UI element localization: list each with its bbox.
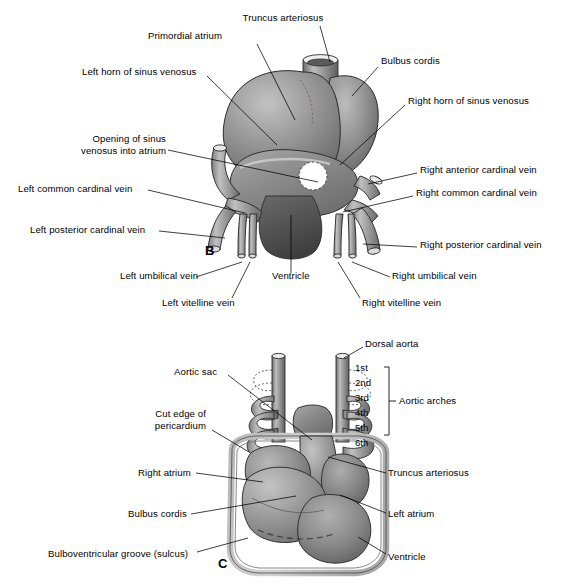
aortic-sac-shape (293, 405, 332, 436)
label-opening-of-sinus-venosus-into-atrium: Opening of sinus venosus into atrium (20, 133, 166, 156)
label-bulbus-cordis-c: Bulbus cordis (128, 508, 187, 520)
label-right-anterior-cardinal-vein: Right anterior cardinal vein (420, 164, 537, 176)
arch-number-5th: 5th (355, 422, 368, 433)
label-truncus-arteriosus: Truncus arteriosus (213, 12, 353, 24)
label-left-vitelline-vein: Left vitelline vein (162, 297, 235, 309)
anatomical-illustration (0, 0, 562, 586)
panel-letter-c: C (218, 556, 227, 571)
figure-root: Truncus arteriosus Primordial atrium Bul… (0, 0, 562, 586)
label-right-umbilical-vein: Right umbilical vein (392, 270, 477, 282)
arch-number-6th: 6th (355, 437, 368, 448)
panel-letter-b: B (205, 243, 214, 258)
label-left-horn-of-sinus-venosus: Left horn of sinus venosus (82, 66, 197, 78)
label-left-umbilical-vein: Left umbilical vein (120, 270, 198, 282)
aortic-arches-bracket (384, 367, 396, 435)
arch-number-1st: 1st (355, 362, 368, 373)
label-right-common-cardinal-vein: Right common cardinal vein (416, 187, 537, 199)
label-right-horn-of-sinus-venosus: Right horn of sinus venosus (408, 95, 529, 107)
label-right-vitelline-vein: Right vitelline vein (362, 297, 441, 309)
label-bulbus-cordis: Bulbus cordis (381, 55, 440, 67)
label-right-atrium: Right atrium (138, 467, 191, 479)
label-left-atrium: Left atrium (388, 508, 434, 520)
label-bulboventricular-groove: Bulboventricular groove (sulcus) (48, 548, 188, 560)
label-right-posterior-cardinal-vein: Right posterior cardinal vein (420, 239, 542, 251)
sinus-venosus-opening (299, 162, 327, 190)
arch-number-2nd: 2nd (355, 377, 371, 388)
label-aortic-arches: Aortic arches (399, 395, 456, 407)
ventricle-shape-c (298, 494, 371, 563)
label-primordial-atrium: Primordial atrium (115, 30, 255, 42)
arch-number-4th: 4th (355, 407, 368, 418)
arch-number-3rd: 3rd (355, 392, 369, 403)
ventricle-shape-b (259, 196, 322, 259)
label-truncus-arteriosus-c: Truncus arteriosus (388, 467, 469, 479)
label-dorsal-aorta: Dorsal aorta (365, 338, 418, 350)
label-cut-edge-of-pericardium: Cut edge of pericardium (78, 408, 206, 431)
label-ventricle-c: Ventricle (388, 551, 426, 563)
label-ventricle-b: Ventricle (272, 270, 310, 282)
label-left-posterior-cardinal-vein: Left posterior cardinal vein (30, 224, 145, 236)
label-left-common-cardinal-vein: Left common cardinal vein (18, 183, 132, 195)
label-aortic-sac: Aortic sac (174, 366, 217, 378)
